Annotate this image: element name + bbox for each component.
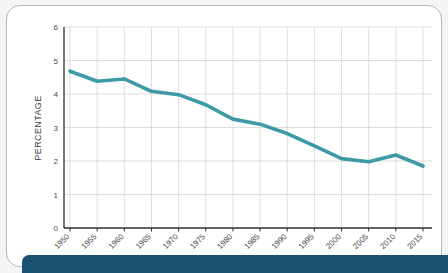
x-tick-label: 1990	[270, 232, 289, 251]
x-tick-label: 1960	[107, 232, 126, 251]
y-tick-labels: 0123456	[54, 23, 59, 233]
chart-card: 0123456 19501955196019651970197519801985…	[6, 5, 442, 267]
y-gridlines	[64, 27, 432, 195]
y-tick-label: 4	[54, 90, 59, 99]
x-tick-label: 2010	[378, 232, 397, 251]
y-axis-label: PERCENTAGE	[33, 95, 43, 160]
x-tick-label: 1965	[134, 232, 153, 251]
y-tick-label: 1	[54, 191, 59, 200]
line-chart: 0123456 19501955196019651970197519801985…	[7, 6, 442, 267]
x-tick-label: 2015	[405, 232, 424, 251]
x-tick-label: 1970	[161, 232, 180, 251]
chart-svg: 0123456 19501955196019651970197519801985…	[7, 6, 442, 267]
page-background: 0123456 19501955196019651970197519801985…	[0, 0, 448, 273]
x-tick-label: 1955	[80, 232, 99, 251]
y-tick-label: 0	[54, 224, 59, 233]
y-tick-label: 2	[54, 157, 59, 166]
x-tick-label: 2000	[324, 232, 343, 251]
bottom-banner	[22, 255, 448, 273]
x-tick-label: 1985	[243, 232, 262, 251]
x-tick-label: 1975	[188, 232, 207, 251]
y-tick-label: 3	[54, 124, 59, 133]
y-tick-label: 6	[54, 23, 59, 32]
x-tick-labels: 1950195519601965197019751980198519901995…	[52, 232, 424, 251]
data-series-line	[70, 71, 423, 166]
y-tick-label: 5	[54, 57, 59, 66]
x-tick-label: 1995	[297, 232, 316, 251]
x-tick-label: 2005	[351, 232, 370, 251]
x-tick-label: 1980	[215, 232, 234, 251]
x-tick-label: 1950	[52, 232, 71, 251]
